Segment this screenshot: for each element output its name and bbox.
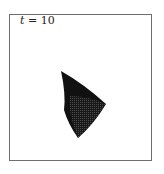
surface-shape bbox=[0, 0, 164, 174]
